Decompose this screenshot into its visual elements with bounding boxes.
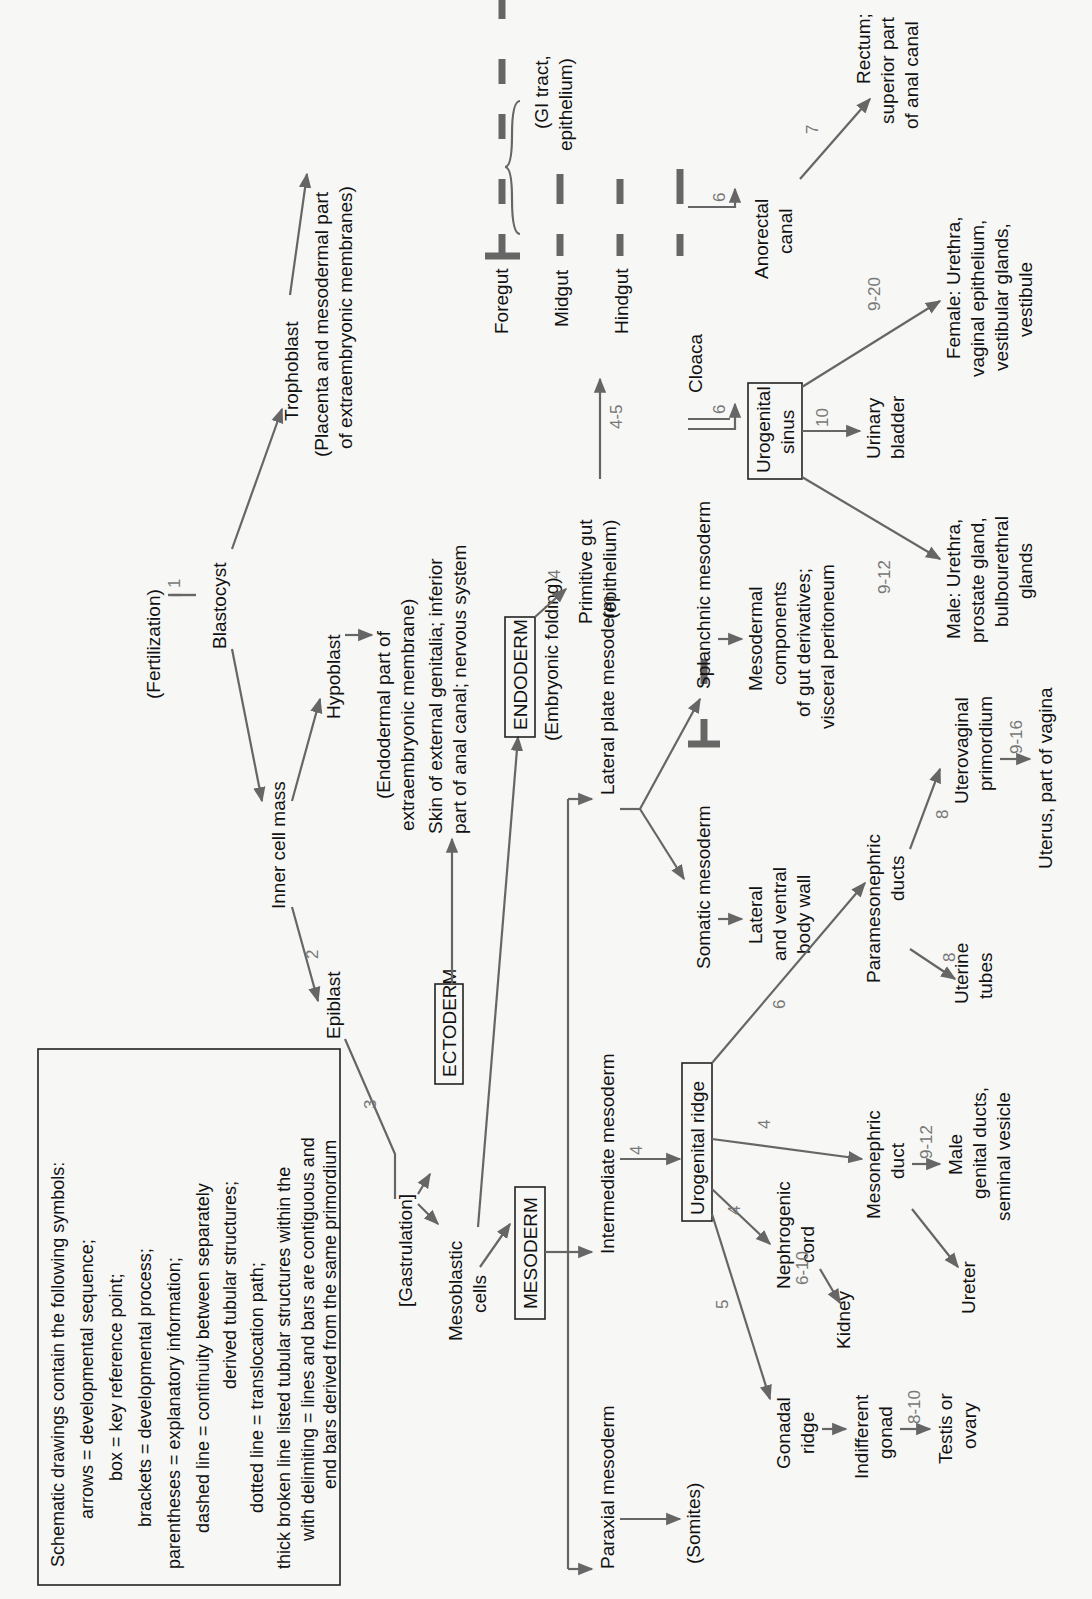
week-label: 7: [803, 125, 822, 134]
week-label: 4-5: [607, 404, 626, 429]
node-mesodermal-comp: Mesodermal: [745, 586, 766, 691]
node-testis-ovary: Testis or: [935, 1393, 956, 1464]
arrow-mesonephric-ureter: [912, 1209, 958, 1267]
arrow-lpm-splanchnic: [640, 699, 700, 809]
node-rectum-2: superior part: [877, 17, 898, 124]
node-gonadal-ridge: Gonadal: [773, 1397, 794, 1469]
node-female-derivs-4: vestibule: [1015, 262, 1036, 337]
node-rectum: Rectum;: [853, 13, 874, 84]
node-placenta-2: of extraembryonic membranes): [335, 186, 356, 449]
arrow-blast-icm: [232, 649, 262, 801]
node-somites: (Somites): [683, 1483, 704, 1564]
legend-line: brackets = developmental process;: [135, 1248, 155, 1527]
legend-title: Schematic drawings contain the following…: [48, 1162, 68, 1567]
node-uterine-tubes: Uterine: [951, 943, 972, 1004]
legend-line: thick broken line listed tubular structu…: [274, 1167, 294, 1569]
node-inner-cell-mass: Inner cell mass: [268, 781, 289, 909]
node-body-wall-3: body wall: [793, 875, 814, 954]
node-ectoderm-derivs: Skin of external genitalia; inferior: [425, 558, 446, 834]
week-label: 4: [725, 1206, 744, 1215]
node-female-derivs-3: vestibular glands,: [991, 223, 1012, 371]
node-uterovaginal: Uterovaginal: [951, 697, 972, 804]
week-label: 4: [755, 1120, 774, 1129]
week-label: 4: [545, 570, 564, 579]
node-male-genital-2: genital ducts,: [969, 1087, 990, 1199]
week-label: 9-12: [875, 560, 894, 594]
node-splanchnic: Splanchnic mesoderm: [693, 501, 714, 689]
node-ectoderm: ECTODERM: [439, 969, 460, 1077]
node-uterine-tubes-2: tubes: [975, 953, 996, 999]
week-label: 5: [713, 1300, 732, 1309]
node-urogenital-ridge: Urogenital ridge: [687, 1081, 708, 1215]
node-body-wall-2: and ventral: [769, 867, 790, 961]
node-mesodermal-comp-2: components: [769, 581, 790, 685]
node-female-derivs: Female: Urethra,: [943, 216, 964, 359]
week-label: 6-10: [793, 1251, 812, 1285]
node-urinary-bladder-2: bladder: [887, 395, 908, 459]
arrow-troph-placenta: [290, 174, 307, 295]
legend-box: Schematic drawings contain the following…: [38, 1049, 340, 1585]
diagram-stage: Schematic drawings contain the following…: [0, 0, 1092, 1599]
arrow-anorectal-rectum: [800, 99, 870, 179]
node-uterovaginal-2: primordium: [975, 696, 996, 791]
node-primitive-gut: Primitive gut: [575, 519, 596, 624]
gut-continuity-line: [485, 0, 680, 256]
node-body-wall: Lateral: [745, 886, 766, 944]
week-label: 6: [770, 1000, 789, 1009]
legend-line: with delimiting = lines and bars are con…: [298, 1137, 318, 1542]
week-label: 6: [710, 193, 729, 202]
arrow-pmd-uterovaginal: [910, 769, 940, 849]
week-label: 1: [165, 579, 184, 588]
node-midgut: Midgut: [551, 269, 572, 327]
week-label: 9-20: [865, 277, 884, 311]
node-urogenital-sinus-2: sinus: [777, 410, 798, 454]
legend-line: arrows = developmental sequence;: [77, 1239, 97, 1519]
node-male-derivs-2: prostate gland,: [967, 517, 988, 643]
week-label: 8-10: [905, 1390, 924, 1424]
embryology-flowchart: Schematic drawings contain the following…: [0, 0, 1092, 1599]
arrow-gastr-mesoblastic: [418, 1204, 438, 1224]
node-gonadal-ridge-2: ridge: [797, 1412, 818, 1454]
node-paraxial: Paraxial mesoderm: [597, 1405, 618, 1569]
node-male-derivs-3: bulbourethral: [991, 516, 1012, 627]
node-rectum-3: of anal canal: [901, 21, 922, 129]
node-gastrulation: [Gastrulation]: [395, 1194, 416, 1307]
node-fertilization: (Fertilization): [143, 589, 164, 699]
node-anorectal: Anorectal: [751, 199, 772, 279]
legend-line: dotted line = translocation path;: [247, 1262, 267, 1513]
node-female-derivs-2: vaginal epithelium,: [967, 220, 988, 377]
node-male-derivs-4: glands: [1015, 543, 1036, 599]
arrow-mesoblastic-endoderm: [478, 737, 518, 1227]
legend-line: end bars derived from the same primordiu…: [320, 1140, 340, 1489]
node-endodermal-part: (Endodermal part of: [373, 630, 394, 799]
line-epiblast-gastrulation: [345, 1039, 395, 1199]
node-gi-tract-2: epithelium): [555, 58, 576, 151]
arrow-lpm-somatic: [640, 809, 684, 879]
arrow-ugs-female: [802, 301, 940, 387]
node-urinary-bladder: Urinary: [863, 397, 884, 459]
arrow-ur-mesonephric: [712, 1139, 862, 1159]
node-male-derivs: Male: Urethra,: [943, 519, 964, 639]
node-male-genital-3: seminal vesicle: [993, 1092, 1014, 1221]
node-mesodermal-comp-3: of gut derivatives;: [793, 568, 814, 717]
node-ectoderm-derivs-2: part of anal canal; nervous system: [449, 545, 470, 834]
node-mesonephric-2: duct: [887, 1142, 908, 1179]
arrow-gastr-ectoderm: [418, 1174, 430, 1194]
legend-line: dashed line = continuity between separat…: [193, 1183, 213, 1533]
week-label: 2: [303, 950, 322, 959]
arrow-icm-hypoblast: [292, 699, 320, 801]
node-paramesonephric-2: ducts: [887, 856, 908, 901]
week-label: 9-16: [1007, 720, 1026, 754]
node-urogenital-sinus: Urogenital: [753, 386, 774, 473]
arrow-ugs-male: [802, 477, 940, 559]
node-blastocyst: Blastocyst: [209, 562, 230, 649]
node-endodermal-part-2: extraembryonic membrane): [397, 599, 418, 831]
arrow-blast-troph: [232, 409, 282, 549]
node-mesoblastic-cells: Mesoblastic: [445, 1241, 466, 1341]
node-mesonephric: Mesonephric: [863, 1110, 884, 1219]
week-label: 8: [933, 810, 952, 819]
node-hindgut: Hindgut: [611, 268, 632, 334]
node-gi-tract: (GI tract,: [531, 55, 552, 129]
node-anorectal-2: canal: [775, 209, 796, 254]
node-intermediate: Intermediate mesoderm: [597, 1053, 618, 1254]
